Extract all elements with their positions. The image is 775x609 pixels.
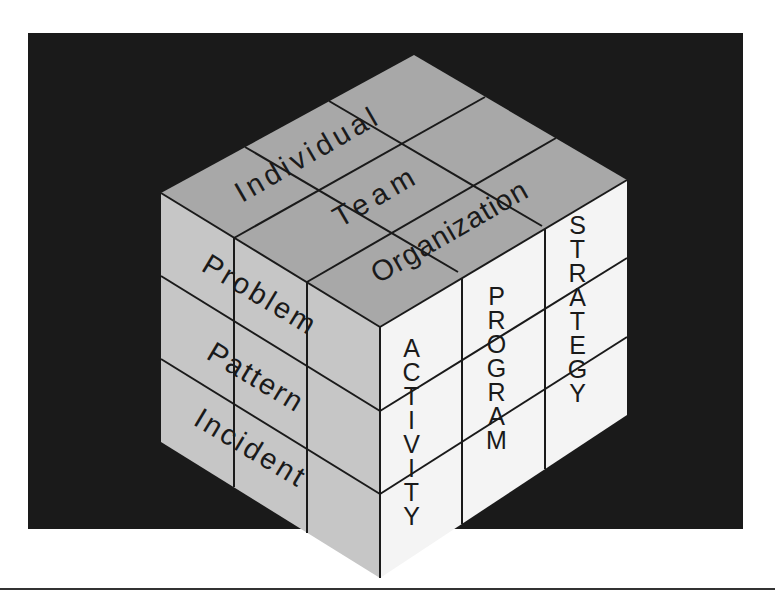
diagram-canvas: Individual Team Organization Problem Pat… xyxy=(0,0,775,609)
horizontal-rule xyxy=(0,588,775,590)
right-label-program: PROGRAM xyxy=(486,282,506,454)
right-label-activity: ACTIVITY xyxy=(402,334,420,530)
right-label-strategy: STRATEGY xyxy=(568,211,586,407)
cube-diagram: Individual Team Organization Problem Pat… xyxy=(0,0,775,609)
